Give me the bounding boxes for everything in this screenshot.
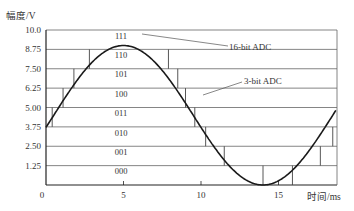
x-axis-ticks: 051015 xyxy=(40,181,284,200)
band-code-110: 110 xyxy=(115,50,127,60)
band-code-010: 010 xyxy=(115,128,128,138)
band-code-labels: 000001010011100101110111 xyxy=(115,31,128,177)
y-axis-title: 幅度/V xyxy=(6,10,36,21)
y-tick-label: 5.00 xyxy=(25,103,41,113)
band-code-111: 111 xyxy=(115,31,127,41)
annotation-16bit-leader xyxy=(142,34,228,46)
band-code-001: 001 xyxy=(115,147,128,157)
band-code-011: 011 xyxy=(115,108,127,118)
y-tick-label: 3.75 xyxy=(25,122,41,132)
band-code-000: 000 xyxy=(115,166,128,176)
y-tick-label: 2.50 xyxy=(25,141,41,151)
band-code-101: 101 xyxy=(115,69,128,79)
y-tick-label: 8.75 xyxy=(25,44,41,54)
annotation-3bit-label: 3-bit ADC xyxy=(244,76,282,86)
x-tick-label: 0 xyxy=(40,190,45,200)
x-tick-label: 10 xyxy=(197,190,207,200)
x-tick-label: 5 xyxy=(121,190,126,200)
x-tick-label: 15 xyxy=(274,190,284,200)
y-tick-label: 1.25 xyxy=(25,161,41,171)
y-axis-ticks: 1.252.503.755.006.257.508.7510.0 xyxy=(25,25,41,171)
annotation-16bit-label: 16-bit ADC xyxy=(229,42,271,52)
band-code-100: 100 xyxy=(115,89,128,99)
y-tick-label: 7.50 xyxy=(25,64,41,74)
adc-quantization-chart: 幅度/V 1.252.503.755.006.257.508.7510.0 05… xyxy=(0,0,354,211)
series-3bit-adc-steps xyxy=(52,49,333,185)
x-axis-title: 时间/ms xyxy=(307,191,341,202)
y-tick-label: 6.25 xyxy=(25,83,41,93)
y-tick-label: 10.0 xyxy=(25,25,41,35)
